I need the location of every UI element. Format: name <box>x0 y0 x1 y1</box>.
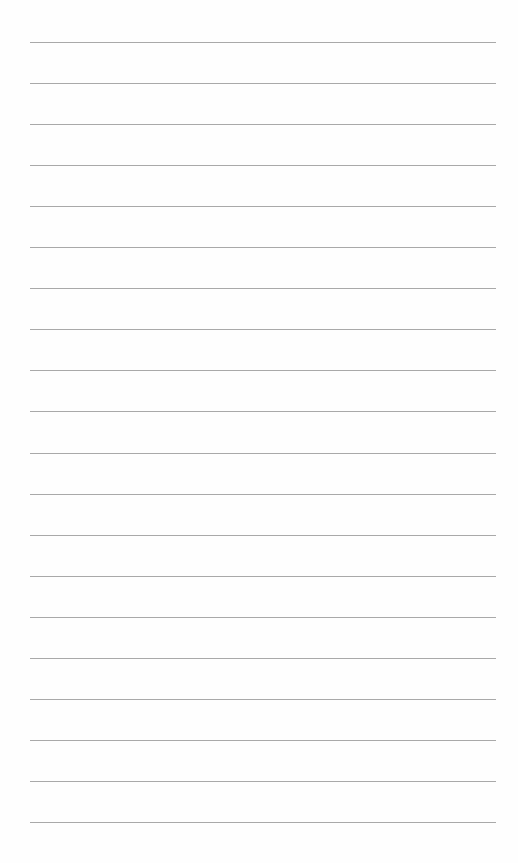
ruled-line <box>30 822 496 823</box>
ruled-line <box>30 781 496 782</box>
lined-paper-sheet <box>0 0 518 863</box>
ruled-line <box>30 165 496 166</box>
ruled-line <box>30 247 496 248</box>
ruled-line <box>30 699 496 700</box>
ruled-line <box>30 124 496 125</box>
ruled-line <box>30 658 496 659</box>
ruled-line <box>30 494 496 495</box>
ruled-line <box>30 617 496 618</box>
ruled-line <box>30 288 496 289</box>
ruled-line <box>30 42 496 43</box>
ruled-line <box>30 370 496 371</box>
ruled-line <box>30 411 496 412</box>
ruled-line <box>30 206 496 207</box>
ruled-line <box>30 740 496 741</box>
ruled-line <box>30 535 496 536</box>
ruled-line <box>30 83 496 84</box>
ruled-line <box>30 453 496 454</box>
ruled-line <box>30 576 496 577</box>
ruled-line <box>30 329 496 330</box>
